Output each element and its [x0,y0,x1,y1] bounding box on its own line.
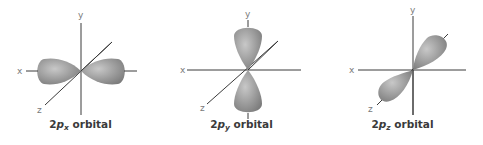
y-axis-label: y [245,9,251,19]
upper-lobe [234,28,262,70]
z-axis-label: z [368,104,373,114]
x-axis-label: x [17,66,23,76]
z-axis-label: z [37,105,42,115]
caption-2pz: 2pz orbital [322,118,483,132]
panel-2px-orbital: y x z 2px orbital [0,0,161,145]
panel-2pz-orbital: y x z 2pz orbital [322,0,483,145]
x-axis-label: x [180,65,186,75]
panel-2py-orbital: y x z 2py orbital [161,0,322,145]
back-lobe [413,35,447,70]
caption-2py: 2py orbital [161,118,322,132]
caption-2px: 2px orbital [0,118,161,132]
z-axis-label: z [200,103,205,113]
right-lobe [81,58,125,84]
left-lobe [37,58,81,84]
y-axis-label: y [410,5,416,15]
y-axis-label: y [78,10,84,20]
front-lobe [378,70,413,102]
x-axis-label: x [349,65,355,75]
